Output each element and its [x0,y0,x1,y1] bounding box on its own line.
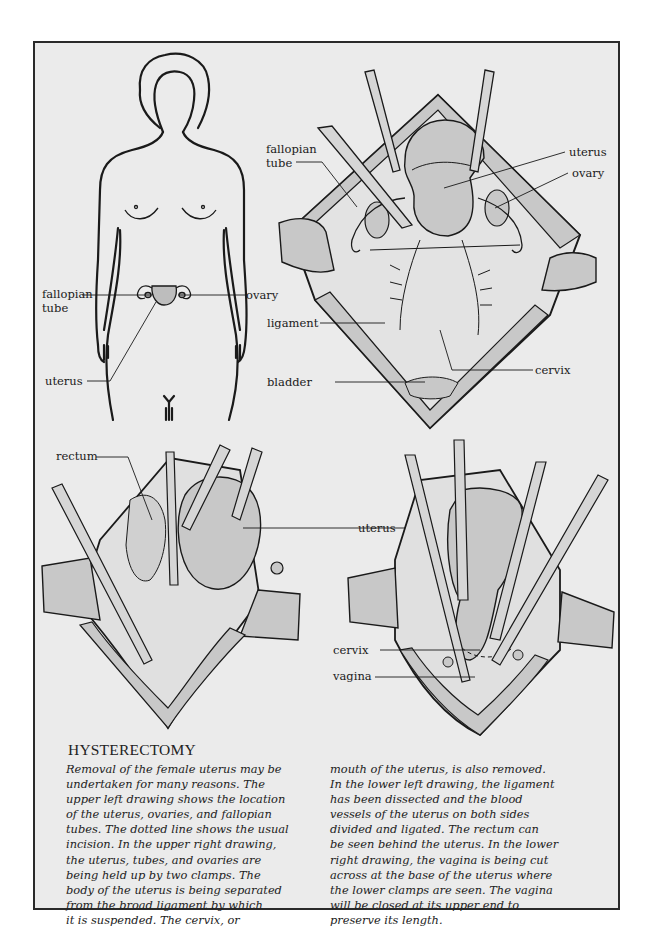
caption-line: undertaken for many reasons. The [66,777,316,792]
caption-column-2: mouth of the uterus, is also removed. In… [330,762,580,928]
caption-line: upper left drawing shows the location [66,792,316,807]
caption-line: across at the base of the uterus where [330,868,580,883]
caption-line: will be closed at its upper end to [330,898,580,913]
label-cervix-lr: cervix [333,644,368,657]
caption-line: the uterus, tubes, and ovaries are [66,853,316,868]
caption-title: HYSTERECTOMY [68,741,196,759]
label-uterus-ll: uterus [358,522,396,535]
caption-line: from the broad ligament by which [66,898,316,913]
caption-line: vessels of the uterus on both sides [330,807,580,822]
caption-line: being held up by two clamps. The [66,868,316,883]
caption-line: mouth of the uterus, is also removed. [330,762,580,777]
caption-line: preserve its length. [330,913,580,928]
caption-line: of the uterus, ovaries, and fallopian [66,807,316,822]
caption-line: incision. In the upper right drawing, [66,837,316,852]
caption-line: the lower clamps are seen. The vagina [330,883,580,898]
caption-line: divided and ligated. The rectum can [330,822,580,837]
caption-line: In the lower left drawing, the ligament [330,777,580,792]
label-vagina-lr: vagina [333,670,372,683]
caption-line: it is suspended. The cervix, or [66,913,316,928]
caption-line: be seen behind the uterus. In the lower [330,837,580,852]
caption-line: tubes. The dotted line shows the usual [66,822,316,837]
caption-line: right drawing, the vagina is being cut [330,853,580,868]
caption-column-1: Removal of the female uterus may be unde… [66,762,316,928]
caption-line: Removal of the female uterus may be [66,762,316,777]
caption-line: body of the uterus is being separated [66,883,316,898]
caption-line: has been dissected and the blood [330,792,580,807]
